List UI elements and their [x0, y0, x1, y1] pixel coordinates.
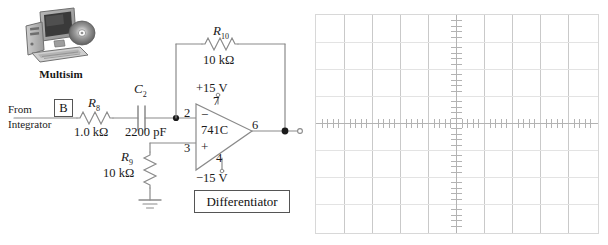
pin-label-vplus: 7 — [213, 95, 219, 108]
axis-tick-h — [590, 119, 591, 128]
axis-tick-v — [451, 64, 462, 65]
axis-tick-h — [534, 119, 535, 128]
node-tag-b: B — [54, 99, 73, 117]
axis-tick-h — [327, 119, 328, 128]
axis-tick-v — [451, 37, 462, 38]
grid-line-v-9 — [568, 15, 569, 233]
axis-tick-v — [451, 226, 462, 227]
axis-tick-h — [585, 119, 586, 128]
axis-tick-h — [523, 119, 524, 128]
grid-line-v-6 — [484, 15, 485, 233]
grid-line-h-3 — [316, 96, 598, 97]
axis-tick-v — [451, 172, 462, 173]
axis-tick-v — [451, 20, 462, 21]
label-r9-ref: R9 — [121, 150, 133, 167]
axis-tick-v — [451, 182, 462, 183]
r10-ref-sub: 10 — [221, 32, 229, 41]
axis-tick-h — [478, 119, 479, 128]
axis-tick-v — [451, 134, 462, 135]
axis-tick-v — [451, 85, 462, 86]
axis-tick-h — [490, 119, 491, 128]
resistor-r9-symbol — [144, 152, 156, 188]
axis-tick-v — [451, 91, 462, 92]
axis-tick-h — [450, 119, 451, 128]
axis-tick-v — [451, 107, 462, 108]
figure-root: Multisim — [0, 0, 608, 245]
axis-tick-h — [439, 119, 440, 128]
pin-label-noninverting: 3 — [184, 142, 190, 155]
label-c2-value: 2200 pF — [125, 126, 166, 139]
axis-tick-v — [451, 74, 462, 75]
grid-line-v-7 — [512, 15, 513, 233]
opamp-inverting-symbol: − — [201, 108, 208, 122]
axis-tick-v — [451, 139, 462, 140]
label-r8-ref: R8 — [88, 96, 100, 113]
grid-line-h-2 — [316, 69, 598, 70]
axis-tick-h — [350, 119, 351, 128]
axis-tick-v — [451, 128, 462, 129]
r8-ref-letter: R — [88, 95, 96, 110]
axis-tick-h — [422, 119, 423, 128]
r9-ref-letter: R — [121, 149, 129, 164]
label-supply-negative: −15 V — [196, 172, 227, 185]
axis-tick-v — [451, 155, 462, 156]
differentiator-title-text: Differentiator — [206, 194, 277, 210]
axis-tick-h — [445, 119, 446, 128]
grid-line-v-4 — [428, 15, 429, 233]
axis-tick-h — [361, 119, 362, 128]
grid-line-h-7 — [316, 204, 598, 205]
grid-line-v-1 — [344, 15, 345, 233]
axis-tick-h — [473, 119, 474, 128]
axis-tick-v — [451, 193, 462, 194]
axis-tick-h — [417, 119, 418, 128]
axis-tick-v — [451, 58, 462, 59]
axis-tick-v — [451, 31, 462, 32]
axis-tick-v — [451, 26, 462, 27]
grid-line-h-6 — [316, 177, 598, 178]
label-r10-ref: R10 — [213, 24, 229, 41]
pin-label-vminus: 4 — [216, 152, 222, 165]
label-c2-ref: C2 — [134, 82, 147, 99]
c2-ref-sub: 2 — [143, 90, 147, 99]
axis-tick-h — [506, 119, 507, 128]
axis-tick-v — [451, 53, 462, 54]
grid-line-v-8 — [540, 15, 541, 233]
axis-tick-h — [338, 119, 339, 128]
axis-tick-h — [333, 119, 334, 128]
axis-tick-h — [546, 119, 547, 128]
axis-tick-h — [518, 119, 519, 128]
axis-tick-h — [389, 119, 390, 128]
axis-tick-h — [322, 119, 323, 128]
axis-tick-v — [451, 188, 462, 189]
axis-tick-v — [451, 220, 462, 221]
axis-tick-h — [411, 119, 412, 128]
label-r9-value: 10 kΩ — [103, 167, 134, 180]
oscilloscope-graticule[interactable] — [315, 14, 599, 234]
terminal-output — [298, 129, 303, 134]
axis-tick-h — [529, 119, 530, 128]
axis-tick-h — [355, 119, 356, 128]
axis-tick-h — [366, 119, 367, 128]
r8-ref-sub: 8 — [96, 104, 100, 113]
axis-tick-h — [495, 119, 496, 128]
opamp-part-number: 741C — [201, 124, 228, 137]
axis-tick-h — [562, 119, 563, 128]
axis-tick-h — [579, 119, 580, 128]
axis-tick-v — [451, 161, 462, 162]
axis-tick-v — [451, 166, 462, 167]
pin-label-output: 6 — [252, 119, 258, 132]
axis-horizontal-center — [316, 123, 598, 124]
axis-tick-h — [406, 119, 407, 128]
axis-tick-v — [451, 199, 462, 200]
grid-line-v-2 — [372, 15, 373, 233]
node-tag-b-text: B — [59, 101, 67, 116]
axis-tick-h — [462, 119, 463, 128]
axis-tick-h — [467, 119, 468, 128]
c2-ref-letter: C — [134, 81, 143, 96]
grid-line-v-3 — [400, 15, 401, 233]
r10-ref-letter: R — [213, 23, 221, 38]
axis-tick-v — [451, 112, 462, 113]
axis-tick-h — [434, 119, 435, 128]
axis-tick-v — [451, 80, 462, 81]
axis-tick-h — [394, 119, 395, 128]
